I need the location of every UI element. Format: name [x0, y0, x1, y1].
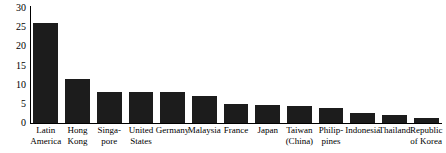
bar [414, 118, 439, 123]
x-tick-label-line: Republic [406, 125, 446, 136]
x-tick-label-line: of Korea [406, 136, 446, 147]
x-tick-label-line: pines [311, 136, 351, 147]
bar [319, 108, 344, 123]
bar [97, 92, 122, 123]
x-tick-label-line: States [121, 136, 161, 147]
x-axis-line [30, 123, 442, 124]
y-tick-label: 15 [16, 61, 26, 71]
bar [65, 79, 90, 123]
y-tick-label: 30 [16, 3, 26, 13]
y-tick-label: 25 [16, 22, 26, 32]
bar-chart: 051015202530 LatinAmericaHongKongSinga-p… [0, 0, 446, 153]
y-axis-tick-labels: 051015202530 [0, 0, 26, 153]
bar [287, 106, 312, 123]
bar [33, 23, 58, 123]
y-tick-label: 10 [16, 80, 26, 90]
bar [160, 92, 185, 123]
bar [350, 113, 375, 123]
plot-area [30, 8, 442, 123]
bar [224, 104, 249, 123]
x-tick-label: Republicof Korea [406, 125, 446, 147]
bar [192, 96, 217, 123]
y-tick-label: 5 [21, 99, 26, 109]
x-axis-category-labels: LatinAmericaHongKongSinga-poreUnitedStat… [30, 125, 446, 153]
y-tick-label: 20 [16, 41, 26, 51]
bar [129, 92, 154, 123]
bar [255, 105, 280, 123]
bar [382, 115, 407, 123]
